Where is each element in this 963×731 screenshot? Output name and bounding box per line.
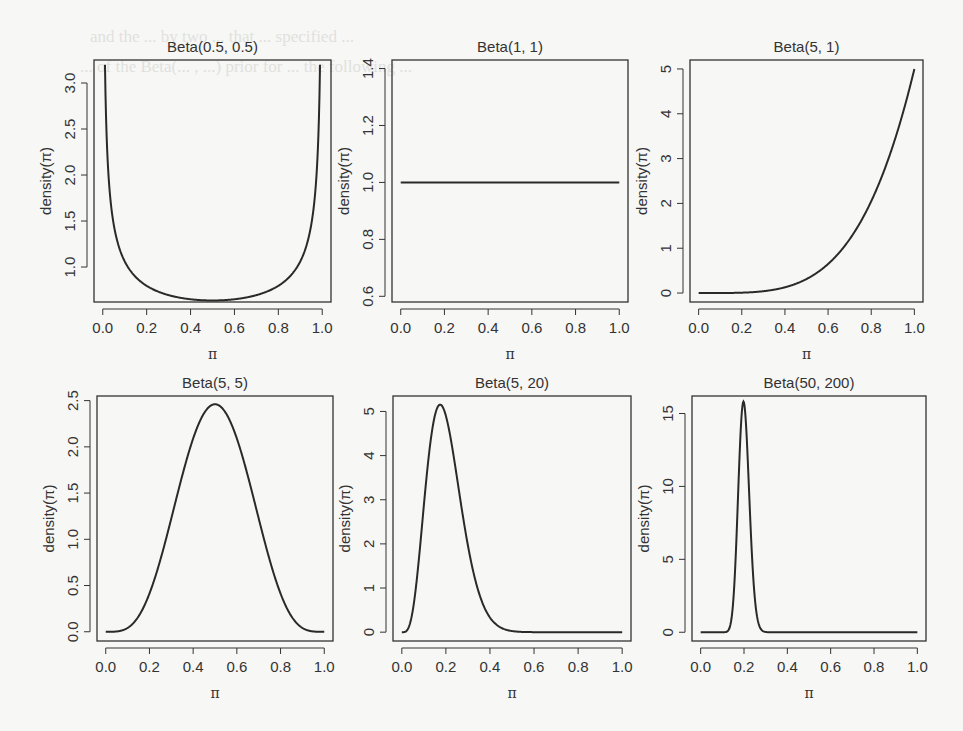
x-tick-label: 0.2 xyxy=(136,319,157,336)
y-axis-label: density(π) xyxy=(40,485,57,553)
plot-frame xyxy=(97,396,333,641)
y-tick-label: 1.5 xyxy=(64,483,81,504)
y-tick-label: 10 xyxy=(659,478,676,495)
y-axis-label: density(π) xyxy=(336,485,353,553)
x-tick-label: 0.4 xyxy=(478,319,499,336)
x-tick-label: 0.0 xyxy=(391,658,412,675)
y-tick-label: 3 xyxy=(657,154,674,162)
y-tick-label: 5 xyxy=(360,407,377,415)
chart-panel: Beta(5, 1)0.00.20.40.60.81.0π012345densi… xyxy=(633,38,925,362)
chart-panel: Beta(50, 200)0.00.20.40.60.81.0π051015de… xyxy=(635,374,928,701)
x-tick-label: 0.4 xyxy=(777,658,798,675)
density-curve xyxy=(701,402,918,633)
y-tick-label: 2.0 xyxy=(61,165,78,186)
x-tick-label: 1.0 xyxy=(314,658,335,675)
x-tick-label: 0.2 xyxy=(139,658,160,675)
x-tick-label: 0.6 xyxy=(224,319,245,336)
x-tick-label: 0.0 xyxy=(688,319,709,336)
x-axis-label: π xyxy=(210,685,219,701)
x-tick-label: 0.6 xyxy=(818,319,839,336)
y-tick-label: 1.2 xyxy=(359,115,376,136)
y-tick-label: 1.0 xyxy=(359,172,376,193)
chart-title: Beta(5, 5) xyxy=(182,374,248,391)
chart-title: Beta(1, 1) xyxy=(477,38,543,55)
chart-title: Beta(50, 200) xyxy=(764,374,855,391)
plot-frame xyxy=(393,396,631,641)
y-tick-label: 4 xyxy=(657,110,674,118)
y-tick-label: 5 xyxy=(659,555,676,563)
x-tick-label: 0.4 xyxy=(480,658,501,675)
x-tick-label: 0.8 xyxy=(864,658,885,675)
y-tick-label: 2 xyxy=(360,540,377,548)
y-tick-label: 0.8 xyxy=(359,229,376,250)
chart-panel: Beta(5, 20)0.00.20.40.60.81.0π012345dens… xyxy=(336,374,633,701)
x-tick-label: 0.0 xyxy=(95,658,116,675)
density-curve xyxy=(105,65,320,301)
plot-frame xyxy=(94,60,331,302)
x-axis-label: π xyxy=(507,685,516,701)
x-axis-label: π xyxy=(802,346,811,362)
x-tick-label: 0.8 xyxy=(565,319,586,336)
x-tick-label: 0.6 xyxy=(524,658,545,675)
plot-frame xyxy=(690,60,923,302)
x-tick-label: 0.4 xyxy=(180,319,201,336)
x-axis-label: π xyxy=(208,346,217,362)
x-tick-label: 0.0 xyxy=(92,319,113,336)
y-tick-label: 1.4 xyxy=(359,58,376,79)
chart-title: Beta(5, 20) xyxy=(475,374,549,391)
y-tick-label: 2.5 xyxy=(64,390,81,411)
y-tick-label: 0 xyxy=(659,628,676,636)
y-tick-label: 15 xyxy=(659,405,676,422)
y-tick-label: 4 xyxy=(360,451,377,459)
y-tick-label: 1 xyxy=(360,584,377,592)
chart-title: Beta(5, 1) xyxy=(774,38,840,55)
x-tick-label: 1.0 xyxy=(612,658,633,675)
y-tick-label: 0.5 xyxy=(64,575,81,596)
x-tick-label: 0.8 xyxy=(270,658,291,675)
y-tick-label: 0 xyxy=(360,628,377,636)
chart-panel: Beta(5, 5)0.00.20.40.60.81.0π0.00.51.01.… xyxy=(40,374,335,701)
x-tick-label: 0.6 xyxy=(820,658,841,675)
x-axis-label: π xyxy=(505,346,514,362)
x-tick-label: 1.0 xyxy=(609,319,630,336)
y-tick-label: 3.0 xyxy=(61,73,78,94)
y-tick-label: 1 xyxy=(657,244,674,252)
x-tick-label: 0.2 xyxy=(435,658,456,675)
density-curve xyxy=(402,405,622,633)
x-tick-label: 1.0 xyxy=(312,319,333,336)
y-axis-label: density(π) xyxy=(633,147,650,215)
y-axis-label: density(π) xyxy=(335,147,352,215)
x-tick-label: 0.8 xyxy=(268,319,289,336)
x-tick-label: 0.6 xyxy=(226,658,247,675)
x-tick-label: 0.2 xyxy=(731,319,752,336)
density-curve xyxy=(699,69,915,293)
x-tick-label: 0.2 xyxy=(734,658,755,675)
y-tick-label: 1.0 xyxy=(64,529,81,550)
x-tick-label: 0.0 xyxy=(390,319,411,336)
y-tick-label: 3 xyxy=(360,496,377,504)
x-tick-label: 0.0 xyxy=(690,658,711,675)
chart-panel: Beta(1, 1)0.00.20.40.60.81.0π0.60.81.01.… xyxy=(335,38,630,362)
plot-frame xyxy=(692,396,926,641)
x-tick-label: 0.4 xyxy=(774,319,795,336)
y-tick-label: 1.0 xyxy=(61,257,78,278)
x-tick-label: 0.8 xyxy=(568,658,589,675)
x-axis-label: π xyxy=(804,685,813,701)
chart-panel: Beta(0.5, 0.5)0.00.20.40.60.81.0π1.01.52… xyxy=(37,38,333,362)
x-tick-label: 0.2 xyxy=(434,319,455,336)
x-tick-label: 1.0 xyxy=(904,319,925,336)
x-tick-label: 0.8 xyxy=(861,319,882,336)
x-tick-label: 1.0 xyxy=(907,658,928,675)
y-axis-label: density(π) xyxy=(37,147,54,215)
plot-frame xyxy=(392,60,628,302)
x-tick-label: 0.4 xyxy=(183,658,204,675)
y-tick-label: 2 xyxy=(657,199,674,207)
y-axis-label: density(π) xyxy=(635,485,652,553)
y-tick-label: 0.0 xyxy=(64,621,81,642)
y-tick-label: 2.0 xyxy=(64,436,81,457)
beta-density-figure: Beta(0.5, 0.5)0.00.20.40.60.81.0π1.01.52… xyxy=(0,0,963,731)
y-tick-label: 1.5 xyxy=(61,211,78,232)
y-tick-label: 0.6 xyxy=(359,286,376,307)
y-tick-label: 5 xyxy=(657,65,674,73)
x-tick-label: 0.6 xyxy=(521,319,542,336)
